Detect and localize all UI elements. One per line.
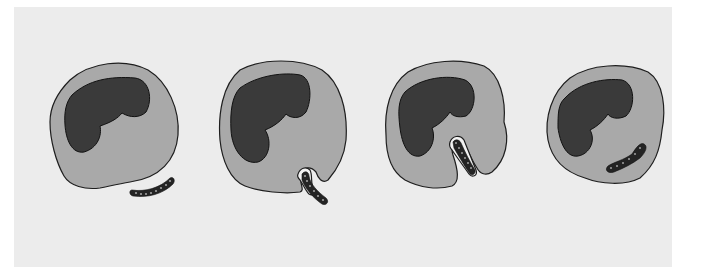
stage-1-cell: [50, 63, 178, 196]
stage-3-cell: [386, 61, 507, 188]
stage-4-cell: [547, 66, 664, 184]
phagocytosis-diagram: [0, 0, 701, 277]
stage-2-cell: [220, 61, 347, 205]
